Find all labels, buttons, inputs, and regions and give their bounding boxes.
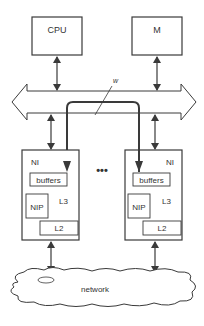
ni-left-nip-label: NIP <box>30 203 43 212</box>
ni-left-l2-label: L2 <box>55 224 64 233</box>
network-cloud: network <box>11 268 196 307</box>
ni-left-buffers-label: buffers <box>36 176 60 185</box>
ni-right-label: NI <box>166 158 174 167</box>
cpu-label: CPU <box>47 25 66 35</box>
ni-left-l3-label: L3 <box>59 197 68 206</box>
ni-right-l3-label: L3 <box>162 197 171 206</box>
diagram-canvas: CPU M NI buffers NIP L3 L2 NI buffers NI… <box>0 0 204 326</box>
ni-left-node: NI buffers NIP L3 L2 <box>22 150 79 240</box>
memory-label: M <box>153 25 161 35</box>
ni-right-nip-label: NIP <box>132 203 145 212</box>
ni-right-buffers-label: buffers <box>139 176 163 185</box>
network-label: network <box>81 285 110 294</box>
ni-right-node: NI buffers NIP L3 L2 <box>125 150 182 240</box>
cpu-node: CPU <box>32 17 82 55</box>
ni-right-l2-label: L2 <box>158 224 167 233</box>
ni-left-label: NI <box>31 158 39 167</box>
path-w-label: w <box>113 77 119 84</box>
ellipsis: ••• <box>96 164 108 176</box>
memory-node: M <box>132 17 182 55</box>
